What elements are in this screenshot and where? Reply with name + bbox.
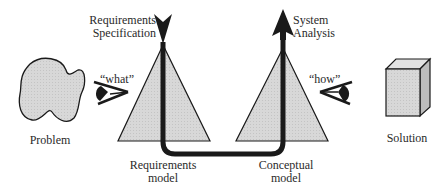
requirements-specification-line2: Specification [82, 27, 156, 40]
problem-blob-icon [19, 58, 84, 121]
solution-label: Solution [377, 132, 437, 145]
conceptual-model-label: Conceptual model [246, 159, 326, 185]
solution-cube-icon [386, 59, 430, 116]
what-label: “what” [100, 73, 134, 86]
requirements-model-label: Requirements model [118, 159, 208, 185]
up-arrow-icon [272, 9, 294, 40]
requirements-specification-label: Requirements Specification [82, 14, 156, 40]
conceptual-model-line2: model [246, 172, 326, 185]
how-label: “how” [309, 73, 340, 86]
system-analysis-label: System Analysis [293, 14, 335, 40]
requirements-model-line2: model [118, 172, 208, 185]
diagram-canvas: Requirements Specification System Analys… [0, 0, 447, 194]
problem-label: Problem [20, 134, 80, 147]
down-arrow-icon [154, 14, 172, 44]
system-analysis-line2: Analysis [293, 27, 335, 40]
diagram-graphics [0, 0, 447, 194]
